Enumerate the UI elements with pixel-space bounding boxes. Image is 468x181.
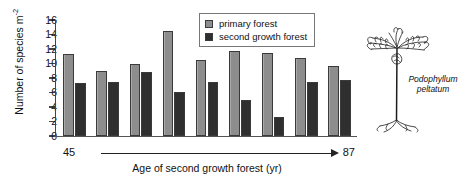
bar-primary-forest bbox=[229, 51, 240, 136]
bar-second-growth-forest bbox=[141, 72, 152, 136]
x-axis-line bbox=[55, 136, 357, 137]
y-axis-tick-label: 2 bbox=[11, 116, 57, 127]
x-axis-range-end-label: 87 bbox=[343, 146, 355, 159]
bar-group bbox=[63, 20, 85, 136]
y-axis-tick-label: 14 bbox=[11, 29, 57, 40]
x-axis-title: Age of second growth forest (yr) bbox=[57, 162, 357, 174]
bar-primary-forest bbox=[163, 31, 174, 136]
bar-second-growth-forest bbox=[241, 100, 252, 136]
y-axis-tick-label: 16 bbox=[11, 15, 57, 26]
legend-label-primary-forest: primary forest bbox=[219, 18, 277, 29]
legend-swatch-primary-forest bbox=[205, 20, 213, 28]
bar-primary-forest bbox=[328, 66, 339, 136]
species-richness-bar-chart: Number of species m-2 0246810121416 prim… bbox=[0, 0, 468, 181]
species-genus: Podophyllum bbox=[408, 74, 457, 84]
bar-second-growth-forest bbox=[208, 82, 219, 136]
y-axis-ticks: 0246810121416 bbox=[0, 0, 57, 181]
y-axis-tick-label: 12 bbox=[11, 44, 57, 55]
bar-second-growth-forest bbox=[340, 80, 351, 136]
bar-second-growth-forest bbox=[274, 117, 285, 136]
species-name-annotation: Podophyllum peltatum bbox=[400, 74, 466, 94]
y-axis-tick-label: 6 bbox=[11, 87, 57, 98]
bar-group bbox=[328, 20, 350, 136]
bar-group bbox=[130, 20, 152, 136]
bar-second-growth-forest bbox=[108, 82, 119, 136]
bar-group bbox=[163, 20, 185, 136]
bar-primary-forest bbox=[130, 64, 141, 137]
bar-second-growth-forest bbox=[174, 92, 185, 136]
y-axis-tick-label: 8 bbox=[11, 73, 57, 84]
bar-group bbox=[96, 20, 118, 136]
bar-primary-forest bbox=[295, 58, 306, 136]
y-axis-tick-label: 10 bbox=[11, 58, 57, 69]
legend-item-primary-forest: primary forest bbox=[205, 17, 307, 30]
bar-primary-forest bbox=[196, 60, 207, 136]
bar-second-growth-forest bbox=[307, 82, 318, 136]
bar-second-growth-forest bbox=[75, 83, 86, 136]
x-axis-arrow-line bbox=[101, 153, 333, 154]
x-axis-range-indicator: 45 87 bbox=[57, 146, 357, 160]
legend-item-second-growth-forest: second growth forest bbox=[205, 30, 307, 43]
x-axis-arrow-head-icon bbox=[331, 149, 339, 157]
species-epithet: peltatum bbox=[417, 84, 450, 94]
y-axis-tick-label: 0 bbox=[11, 131, 57, 142]
bar-primary-forest bbox=[63, 54, 74, 136]
legend-label-second-growth-forest: second growth forest bbox=[219, 31, 307, 42]
bar-primary-forest bbox=[96, 71, 107, 136]
chart-legend: primary forest second growth forest bbox=[199, 13, 315, 47]
legend-swatch-second-growth-forest bbox=[205, 33, 213, 41]
x-axis-range-start-label: 45 bbox=[63, 146, 75, 159]
y-axis-tick-label: 4 bbox=[11, 102, 57, 113]
bar-primary-forest bbox=[262, 53, 273, 136]
